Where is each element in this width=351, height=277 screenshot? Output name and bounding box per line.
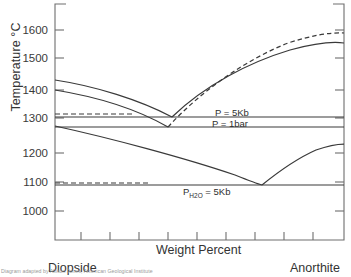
plot-canvas [0, 0, 351, 277]
y-tick-label: 1100 [14, 176, 48, 188]
y-tick-label: 1600 [14, 24, 48, 36]
liquidus-1bar-anorthite [168, 33, 344, 127]
liquidus-5kb-diopside [55, 80, 172, 117]
liquidus-1bar-diopside [55, 90, 168, 127]
liquidus-5kb-anorthite [172, 42, 344, 117]
annotation-liquidus-5kb: P = 5Kb [215, 107, 249, 118]
y-axis-ticks-right [335, 30, 344, 211]
annotation-hydrous-5kb: PH2O = 5Kb [183, 186, 230, 199]
y-tick-label: 1000 [14, 205, 48, 217]
annotation-hydrous-suffix: = 5Kb [203, 186, 231, 197]
y-tick-label: 1300 [14, 112, 48, 124]
liquidus-h2o-anorthite [262, 144, 344, 185]
y-tick-label: 1500 [14, 52, 48, 64]
phase-diagram-figure: Temperature °C 1600 1500 1400 1300 1200 … [0, 0, 351, 277]
figure-caption: Diagram adapted by Allison Jones, Americ… [1, 268, 153, 274]
y-tick-label: 1200 [14, 147, 48, 159]
x-axis-ticks [81, 232, 313, 240]
annotation-liquidus-1bar: P = 1bar [212, 118, 248, 129]
endmember-label-anorthite: Anorthite [290, 261, 340, 275]
y-axis-ticks [55, 30, 64, 211]
x-axis-title: Weight Percent [156, 243, 241, 257]
y-tick-label: 1400 [14, 84, 48, 96]
annotation-hydrous-subscript: H2O [189, 192, 202, 199]
liquidus-h2o-diopside [55, 126, 262, 185]
